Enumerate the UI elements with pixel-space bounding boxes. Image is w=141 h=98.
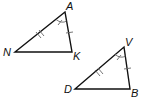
vertex-label-a: A: [65, 0, 73, 12]
vertex-label-v: V: [125, 36, 134, 48]
side-dv-double-tick: [95, 68, 103, 76]
triangle-nak: N A K: [3, 0, 81, 62]
vertex-label-k: K: [73, 50, 81, 62]
vertex-label-n: N: [3, 46, 11, 58]
side-vb-tick: [124, 68, 131, 69]
vertex-label-b: B: [131, 87, 138, 98]
vertex-label-d: D: [64, 83, 72, 95]
side-ak-tick: [66, 32, 73, 33]
triangle-nak-outline: [15, 12, 72, 52]
triangle-dvb: D V B: [64, 36, 138, 98]
congruent-triangles-diagram: N A K D V B: [0, 0, 141, 98]
triangle-dvb-outline: [75, 47, 130, 89]
side-na-double-tick: [36, 30, 44, 38]
